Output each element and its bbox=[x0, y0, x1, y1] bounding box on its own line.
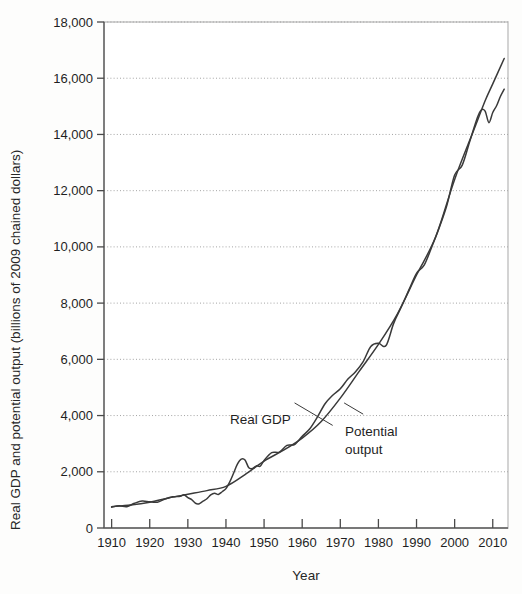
y-axis: 02,0004,0006,0008,00010,00012,00014,0001… bbox=[53, 15, 104, 536]
y-tick-label-2000: 2,000 bbox=[60, 464, 93, 479]
x-tick-label-1940: 1940 bbox=[212, 535, 241, 550]
y-tick-label-0: 0 bbox=[86, 521, 93, 536]
annotation-potential-output-line2: output bbox=[345, 442, 383, 457]
x-tick-label-1910: 1910 bbox=[97, 535, 126, 550]
y-tick-label-12000: 12,000 bbox=[53, 183, 93, 198]
y-tick-label-6000: 6,000 bbox=[60, 352, 93, 367]
line-chart-canvas: 02,0004,0006,0008,00010,00012,00014,0001… bbox=[0, 0, 522, 594]
annotation-potential-output-line1: Potential bbox=[345, 424, 398, 439]
y-tick-label-16000: 16,000 bbox=[53, 71, 93, 86]
annotation-real-gdp: Real GDP bbox=[230, 412, 291, 427]
x-tick-label-1970: 1970 bbox=[326, 535, 355, 550]
x-tick-label-1960: 1960 bbox=[288, 535, 317, 550]
plot-area-frame bbox=[104, 22, 508, 528]
x-tick-label-1990: 1990 bbox=[402, 535, 431, 550]
y-tick-label-10000: 10,000 bbox=[53, 239, 93, 254]
y-tick-label-4000: 4,000 bbox=[60, 408, 93, 423]
y-tick-label-14000: 14,000 bbox=[53, 127, 93, 142]
x-tick-label-1980: 1980 bbox=[364, 535, 393, 550]
y-tick-label-18000: 18,000 bbox=[53, 15, 93, 30]
x-tick-label-2000: 2000 bbox=[440, 535, 469, 550]
x-axis-title: Year bbox=[292, 568, 320, 583]
x-tick-label-1950: 1950 bbox=[250, 535, 279, 550]
x-tick-label-1920: 1920 bbox=[135, 535, 164, 550]
y-axis-title: Real GDP and potential output (billions … bbox=[8, 150, 23, 530]
x-tick-label-1930: 1930 bbox=[173, 535, 202, 550]
x-tick-label-2010: 2010 bbox=[478, 535, 507, 550]
y-tick-label-8000: 8,000 bbox=[60, 296, 93, 311]
gdp-potential-output-figure: 02,0004,0006,0008,00010,00012,00014,0001… bbox=[0, 0, 522, 594]
